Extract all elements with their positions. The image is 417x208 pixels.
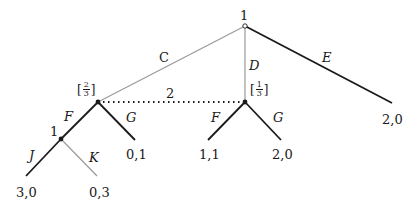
action-label-G-right: G <box>273 111 283 124</box>
right-decision-node <box>243 100 248 105</box>
root-player-label: 1 <box>240 9 248 22</box>
sub-decision-node <box>59 137 64 142</box>
left-decision-node <box>96 100 101 105</box>
game-tree-edges <box>0 0 417 208</box>
payoff-right-G: 2,0 <box>272 148 293 161</box>
left-belief: [23] <box>77 81 95 98</box>
right-belief: [13] <box>250 81 268 98</box>
payoff-E: 2,0 <box>382 113 403 126</box>
right-belief-denominator: 3 <box>257 90 262 98</box>
payoff-K: 0,3 <box>89 186 110 199</box>
action-label-D: D <box>249 59 259 72</box>
payoff-J: 3,0 <box>16 186 37 199</box>
action-label-C: C <box>159 51 169 64</box>
payoff-right-F: 1,1 <box>199 148 220 161</box>
sub-node-player-label: 1 <box>50 125 58 138</box>
info-set-player-label: 2 <box>166 87 174 100</box>
action-label-F-left: F <box>64 110 73 123</box>
payoff-left-G: 0,1 <box>126 148 147 161</box>
action-label-E: E <box>322 51 332 64</box>
action-label-J: J <box>29 149 34 162</box>
left-belief-denominator: 3 <box>84 90 89 98</box>
action-label-G-left: G <box>126 111 136 124</box>
root-node <box>243 24 247 28</box>
action-label-K: K <box>89 151 99 164</box>
action-label-F-right: F <box>211 111 220 124</box>
